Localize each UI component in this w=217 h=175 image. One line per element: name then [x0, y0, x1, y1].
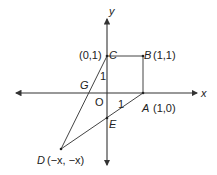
x-axis-label: x [200, 87, 207, 99]
y-axis-label: y [108, 5, 116, 17]
point-E [106, 117, 109, 120]
point-B-label: B [144, 49, 151, 61]
point-C-coord: (0,1) [79, 49, 102, 61]
point-A-coord: (1,0) [153, 102, 176, 114]
point-G-label: G [80, 79, 89, 91]
point-C-label: C [109, 49, 117, 61]
point-D-coord: (−x, −x) [47, 154, 84, 166]
geometry-diagram: y x (0,1) C B (1,1) A (1,0) G O E D (−x,… [0, 0, 217, 175]
point-O-label: O [95, 96, 104, 108]
point-E-label: E [109, 118, 117, 130]
point-B-coord: (1,1) [153, 49, 176, 61]
point-D-label: D [37, 154, 45, 166]
segment-OA-length: 1 [118, 98, 124, 110]
segment-OC-length: 1 [100, 70, 106, 82]
point-C [106, 55, 109, 58]
point-A-label: A [141, 102, 149, 114]
point-A [142, 92, 145, 95]
point-D [60, 148, 63, 151]
